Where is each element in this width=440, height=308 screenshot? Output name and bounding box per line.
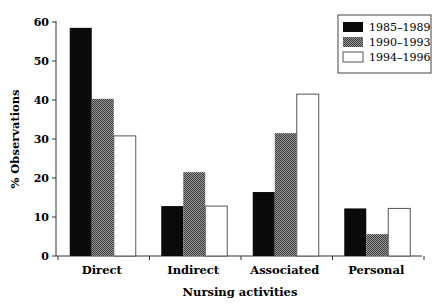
- x-category-label: Associated: [249, 263, 319, 277]
- legend-label: 1985–1989: [369, 21, 431, 34]
- category-labels: DirectIndirectAssociatedPersonal: [82, 263, 405, 277]
- x-category-label: Indirect: [167, 263, 220, 277]
- y-tick-label: 40: [34, 94, 50, 107]
- bar-personal-0: [344, 208, 366, 256]
- legend-label: 1990–1993: [369, 36, 431, 49]
- x-category-label: Direct: [82, 263, 123, 277]
- bar-associated-1: [275, 133, 297, 256]
- y-tick-label: 30: [34, 133, 50, 146]
- legend: 1985–19891990–19931994–1996: [338, 15, 431, 73]
- legend-swatch: [343, 52, 363, 62]
- y-tick-label: 10: [34, 211, 50, 224]
- bar-indirect-0: [161, 206, 183, 256]
- y-tick-label: 60: [34, 16, 50, 29]
- bar-indirect-2: [205, 206, 227, 256]
- bar-direct-1: [92, 99, 114, 256]
- bar-personal-1: [366, 234, 388, 256]
- bar-personal-2: [388, 208, 410, 256]
- bar-chart: 0102030405060 DirectIndirectAssociatedPe…: [0, 0, 440, 308]
- x-axis-title: Nursing activities: [183, 285, 298, 299]
- bar-indirect-1: [183, 172, 205, 256]
- legend-swatch: [343, 22, 363, 32]
- legend-label: 1994–1996: [369, 51, 431, 64]
- bar-direct-2: [114, 136, 136, 256]
- bar-associated-0: [253, 192, 275, 256]
- x-category-label: Personal: [348, 263, 405, 277]
- y-axis-title: % Observations: [8, 89, 22, 188]
- bar-direct-0: [70, 28, 92, 256]
- bar-associated-2: [297, 94, 319, 256]
- y-tick-label: 20: [34, 172, 50, 185]
- legend-swatch: [343, 37, 363, 47]
- y-tick-label: 0: [41, 250, 49, 263]
- x-axis: [56, 256, 424, 260]
- y-tick-label: 50: [34, 55, 50, 68]
- y-axis: 0102030405060: [34, 16, 56, 263]
